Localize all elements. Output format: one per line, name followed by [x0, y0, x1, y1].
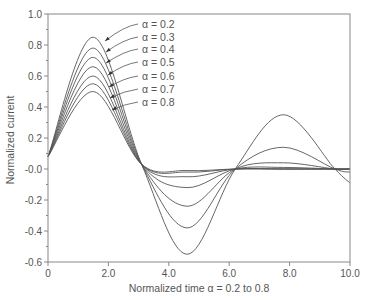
y-tick-label: 0.4 — [28, 102, 42, 113]
alpha-label: α = 0.4 — [142, 43, 175, 55]
annotation-leader — [105, 24, 138, 41]
annotation-leader — [106, 49, 138, 63]
alpha-label: α = 0.3 — [142, 31, 175, 43]
y-tick-label: -0.4 — [25, 226, 43, 237]
x-tick-label: 2.0 — [101, 268, 115, 279]
y-tick-label: -0.0 — [25, 164, 43, 175]
plot-frame — [48, 14, 350, 262]
x-tick-label: 4.0 — [162, 268, 176, 279]
curve-alpha-3 — [48, 48, 350, 228]
chart: 1.00.80.60.40.2-0.0-0.2-0.4-0.6 02.04.06… — [0, 0, 368, 300]
curve-alpha-7 — [48, 84, 350, 174]
x-axis-label: Normalized time α = 0.2 to 0.8 — [129, 282, 270, 294]
alpha-label: α = 0.6 — [142, 70, 175, 82]
x-tick-label: 10.0 — [340, 268, 360, 279]
y-tick-label: -0.6 — [25, 257, 43, 268]
y-tick-label: 0.6 — [28, 71, 42, 82]
x-tick-label: 6.0 — [222, 268, 236, 279]
alpha-label: α = 0.5 — [142, 56, 175, 68]
x-axis-ticks: 02.04.06.08.010.0 — [45, 262, 360, 279]
alpha-label: α = 0.8 — [142, 96, 175, 108]
x-tick-label: 0 — [45, 268, 51, 279]
x-tick-label: 8.0 — [283, 268, 297, 279]
curve-alpha-5 — [48, 67, 350, 188]
curve-alpha-8 — [48, 91, 350, 172]
arrow-head-icon — [105, 37, 110, 41]
curve-alpha-4 — [48, 57, 350, 206]
curve-alpha-2 — [48, 37, 350, 254]
alpha-label: α = 0.7 — [142, 83, 175, 95]
y-tick-label: 0.8 — [28, 40, 42, 51]
alpha-label: α = 0.2 — [142, 18, 175, 30]
data-curves — [48, 37, 350, 254]
y-tick-label: -0.2 — [25, 195, 43, 206]
y-tick-label: 0.2 — [28, 133, 42, 144]
y-axis-ticks: 1.00.80.60.40.2-0.0-0.2-0.4-0.6 — [25, 9, 48, 268]
y-axis-label: Normalized current — [4, 96, 16, 185]
arrow-head-icon — [106, 48, 111, 52]
y-tick-label: 1.0 — [28, 9, 42, 20]
